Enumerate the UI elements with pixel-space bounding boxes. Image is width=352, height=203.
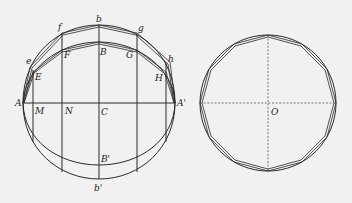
label-G: G (126, 50, 133, 60)
label-A-prime: A' (176, 98, 186, 108)
label-H: H (154, 73, 163, 83)
label-E: E (34, 72, 42, 82)
geometry-figure: b f g e h B F G E H A A' M N C B' b' O (0, 0, 352, 203)
label-f: f (57, 22, 63, 32)
label-O: O (271, 107, 279, 117)
label-M: M (34, 106, 45, 116)
right-diagram: O (200, 35, 336, 171)
label-N: N (64, 106, 74, 116)
label-g: g (138, 23, 144, 33)
left-diagram: b f g e h B F G E H A A' M N C B' b' (14, 14, 186, 193)
label-A: A (14, 98, 22, 108)
label-h: h (168, 54, 174, 64)
label-B-prime: B' (100, 154, 110, 164)
label-B: B (99, 47, 107, 57)
label-e: e (26, 56, 31, 66)
label-C: C (101, 107, 108, 117)
label-b: b (96, 14, 102, 24)
label-F: F (63, 50, 71, 60)
label-b-prime: b' (94, 183, 102, 193)
